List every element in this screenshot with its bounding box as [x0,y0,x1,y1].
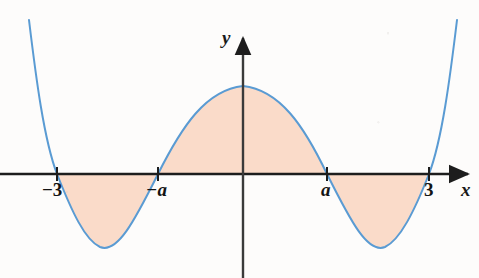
y-axis-label: y [222,28,230,47]
x-axis-label: x [461,180,471,199]
plot-canvas [0,0,479,278]
tick-label-3: 3 [424,180,434,199]
tick-label-minus-3: −3 [42,180,62,199]
tick-label-a: a [321,180,331,199]
tick-label-minus-a: −a [146,180,167,199]
function-graph-figure: −3 −a a 3 y x [0,0,479,278]
